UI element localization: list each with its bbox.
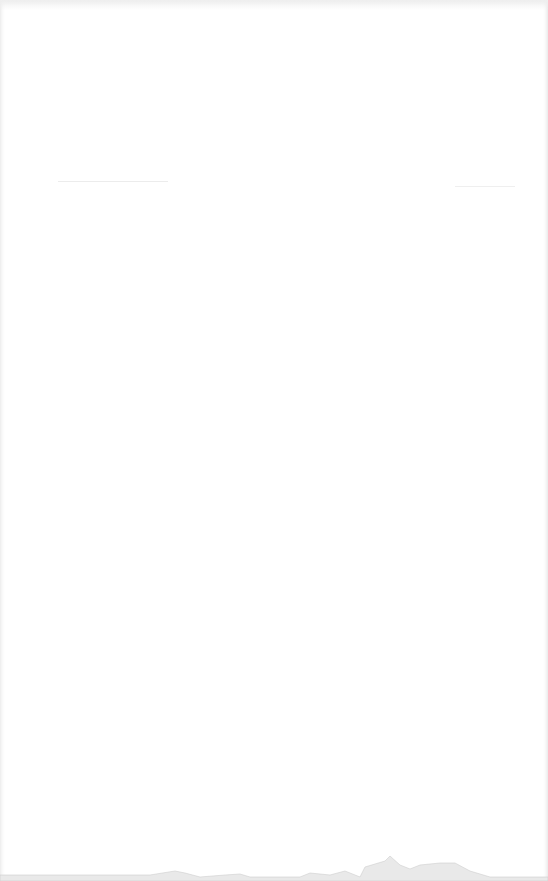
faint-crease-line [58,181,168,182]
page-top-edge [0,0,548,10]
faint-crease-line [455,186,515,187]
blank-page [0,0,548,881]
bottom-stain-mark [0,851,548,881]
